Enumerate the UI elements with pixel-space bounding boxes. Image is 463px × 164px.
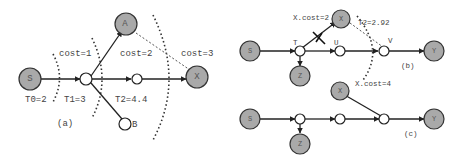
node-t bbox=[295, 46, 305, 56]
edge-x-n3 bbox=[343, 94, 381, 116]
node-u bbox=[132, 74, 142, 84]
x-cost-label-4: X.cost=4 bbox=[355, 80, 392, 88]
node-z-label: Z bbox=[298, 140, 302, 148]
node-b bbox=[119, 118, 131, 130]
panel-c: S X Y Z X.cost=4 (c) bbox=[240, 80, 444, 154]
node-z-label: Z bbox=[298, 72, 302, 80]
edge-t-x bbox=[302, 22, 336, 48]
edge-t-a bbox=[91, 31, 122, 76]
node-a-label: A bbox=[122, 19, 128, 29]
node-s-label: S bbox=[248, 47, 252, 55]
panel-c-caption: (c) bbox=[404, 130, 418, 138]
node-x-label: X bbox=[194, 72, 200, 82]
node-b-label: B bbox=[132, 120, 138, 130]
search-frontier-diagram: S A X B cost=1 cost=2 cost=3 T0=2 T1=3 T… bbox=[0, 0, 463, 164]
node-s-label: S bbox=[248, 115, 252, 123]
threshold-label-t1: T1=3 bbox=[64, 95, 86, 105]
frontier-arc-2 bbox=[153, 15, 169, 140]
threshold-label-t2: T2=2.92 bbox=[358, 19, 390, 27]
node-u-label: U bbox=[334, 39, 339, 47]
node-v-label: V bbox=[388, 37, 393, 45]
cost-label-3: cost=3 bbox=[181, 49, 213, 59]
x-cost-label-2: X.cost=2 bbox=[293, 14, 329, 22]
frontier-arc-0 bbox=[53, 54, 60, 102]
node-t bbox=[80, 73, 92, 85]
node-t-label: T bbox=[293, 39, 298, 47]
node-u bbox=[335, 46, 345, 56]
panel-b-caption: (b) bbox=[401, 62, 415, 70]
node-s-label: S bbox=[27, 74, 32, 84]
panel-b: S T U V X Y Z X.cost=2 T2=2.92 (b) bbox=[240, 10, 444, 86]
threshold-label-t0: T0=2 bbox=[25, 95, 47, 105]
cost-label-1: cost=1 bbox=[59, 49, 91, 59]
node-v bbox=[379, 46, 389, 56]
panel-a: S A X B cost=1 cost=2 cost=3 T0=2 T1=3 T… bbox=[19, 13, 213, 140]
node-n3 bbox=[379, 114, 389, 124]
node-n2 bbox=[335, 114, 345, 124]
frontier-arc-1 bbox=[92, 38, 102, 118]
panel-a-caption: (a) bbox=[57, 119, 73, 129]
cost-label-2: cost=2 bbox=[120, 49, 152, 59]
threshold-label-t2: T2=4.4 bbox=[115, 95, 147, 105]
node-n1 bbox=[295, 114, 305, 124]
